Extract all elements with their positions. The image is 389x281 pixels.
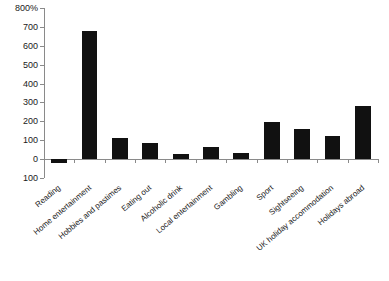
x-axis-category-label: Local entertainment <box>155 184 214 235</box>
bar <box>142 143 158 159</box>
y-axis-tick <box>40 27 44 28</box>
y-axis-tick <box>40 102 44 103</box>
x-axis-tick <box>226 159 227 163</box>
bar <box>355 106 371 159</box>
bar-chart-figure: 800%7006005004003002001000100 ReadingHom… <box>0 0 389 281</box>
y-axis-tick <box>40 46 44 47</box>
x-axis-tick <box>135 159 136 163</box>
bar <box>112 138 128 159</box>
y-axis-tick-label: 200 <box>23 117 38 126</box>
x-axis-category-label: Gambling <box>213 184 244 212</box>
bar <box>51 159 67 163</box>
bar <box>325 136 341 160</box>
y-axis-tick-label: 100 <box>23 174 38 183</box>
x-axis-tick <box>348 159 349 163</box>
x-axis-tick <box>196 159 197 163</box>
plot-area: 800%7006005004003002001000100 <box>44 8 378 178</box>
x-axis-tick <box>105 159 106 163</box>
y-axis-tick <box>40 121 44 122</box>
bar <box>233 153 249 160</box>
y-axis-tick-label: 500 <box>23 60 38 69</box>
y-axis-tick <box>40 140 44 141</box>
y-axis-tick-label: 700 <box>23 22 38 31</box>
y-axis-tick-label: 300 <box>23 98 38 107</box>
y-axis-tick-label: 600 <box>23 41 38 50</box>
x-axis-tick <box>74 159 75 163</box>
y-axis-tick-label: 100 <box>23 136 38 145</box>
bar <box>264 122 280 159</box>
bar <box>203 147 219 159</box>
y-axis-tick-label: 800% <box>15 4 38 13</box>
bar <box>82 31 98 159</box>
x-axis-tick <box>378 159 379 163</box>
x-axis-tick <box>287 159 288 163</box>
y-axis-tick <box>40 8 44 9</box>
x-axis-tick <box>257 159 258 163</box>
x-axis-line <box>44 159 378 160</box>
x-axis-tick <box>317 159 318 163</box>
y-axis-tick <box>40 178 44 179</box>
y-axis-line <box>44 8 45 178</box>
bar <box>294 129 310 159</box>
bar <box>173 154 189 159</box>
y-axis-tick-label: 0 <box>33 155 38 164</box>
y-axis-tick-label: 400 <box>23 79 38 88</box>
x-axis-category-label: Reading <box>34 184 62 209</box>
x-axis-tick <box>165 159 166 163</box>
y-axis-tick <box>40 84 44 85</box>
y-axis-tick <box>40 65 44 66</box>
x-axis-category-label: Sport <box>255 184 275 202</box>
